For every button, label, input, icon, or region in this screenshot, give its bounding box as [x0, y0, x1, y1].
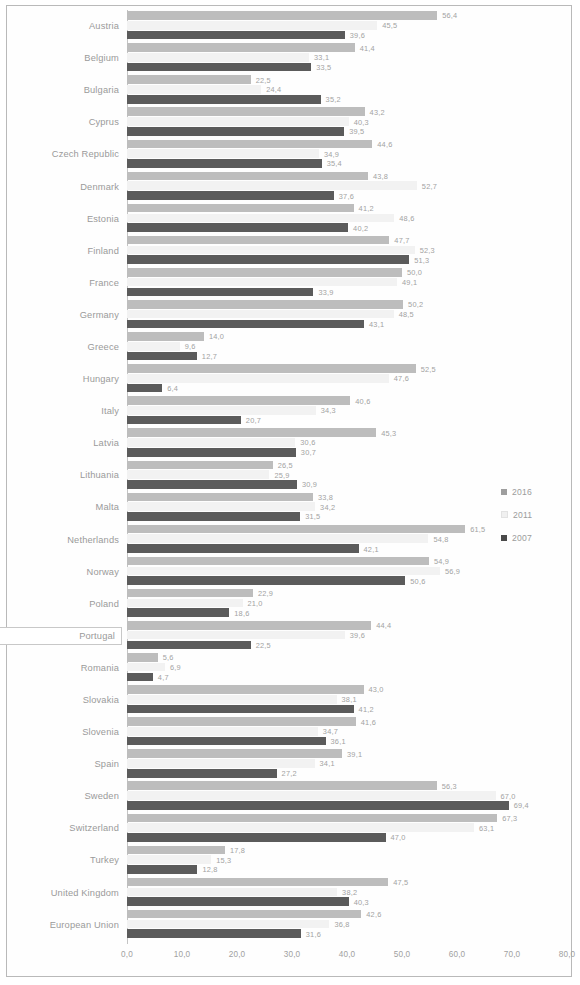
- data-label: 39,6: [345, 631, 365, 640]
- chart-row: United Kingdom47,538,240,3: [7, 877, 571, 909]
- category-label-spain: Spain: [0, 759, 119, 769]
- data-label: 22,5: [251, 75, 271, 84]
- bar-line: 5,6: [127, 653, 565, 662]
- bar-2011-denmark: [127, 181, 417, 190]
- data-label: 50,6: [405, 576, 425, 585]
- bar-line: 49,1: [127, 278, 565, 287]
- bar-2016-romania: [127, 653, 158, 662]
- bar-line: 17,8: [127, 846, 565, 855]
- data-label: 22,9: [253, 589, 273, 598]
- category-label-turkey: Turkey: [0, 855, 119, 865]
- bar-2007-latvia: [127, 448, 296, 457]
- data-label: 31,6: [301, 929, 321, 938]
- bar-line: 4,7: [127, 673, 565, 682]
- bar-group: 17,815,312,8: [127, 844, 565, 876]
- data-label: 54,8: [428, 534, 448, 543]
- legend-swatch-icon: [501, 489, 507, 495]
- data-label: 34,9: [319, 149, 339, 158]
- bar-line: 43,1: [127, 320, 565, 329]
- bar-line: 48,5: [127, 310, 565, 319]
- data-label: 26,5: [273, 460, 293, 469]
- bar-2016-switzerland: [127, 814, 497, 823]
- bar-line: 43,0: [127, 685, 565, 694]
- bar-2011-turkey: [127, 855, 211, 864]
- legend-swatch-icon: [501, 511, 508, 518]
- data-label: 4,7: [153, 672, 169, 681]
- x-axis: 0,010,020,030,040,050,060,070,080,0: [127, 950, 565, 964]
- bar-2007-portugal: [127, 641, 251, 650]
- bar-2007-romania: [127, 673, 153, 682]
- data-label: 22,5: [251, 640, 271, 649]
- data-label: 34,3: [316, 406, 336, 415]
- bar-line: 18,6: [127, 608, 565, 617]
- data-label: 52,7: [417, 181, 437, 190]
- data-label: 45,3: [376, 428, 396, 437]
- category-label-norway: Norway: [0, 567, 119, 577]
- bar-2007-united-kingdom: [127, 897, 349, 906]
- bar-2007-bulgaria: [127, 95, 321, 104]
- chart-row: Finland47,752,351,3: [7, 235, 571, 267]
- category-label-netherlands: Netherlands: [0, 535, 119, 545]
- bar-group: 43,038,141,2: [127, 684, 565, 716]
- category-label-lithuania: Lithuania: [0, 470, 119, 480]
- bar-2011-cyprus: [127, 117, 349, 126]
- bar-2011-finland: [127, 246, 415, 255]
- bar-line: 9,6: [127, 342, 565, 351]
- data-label: 34,7: [318, 727, 338, 736]
- legend-item-2016[interactable]: 2016: [501, 480, 571, 503]
- data-label: 6,9: [165, 663, 181, 672]
- bar-2011-france: [127, 278, 397, 287]
- chart-row: Austria56,445,539,6: [7, 10, 571, 42]
- chart-row: Latvia45,330,630,7: [7, 427, 571, 459]
- bar-line: 37,6: [127, 191, 565, 200]
- data-label: 52,3: [415, 245, 435, 254]
- bar-line: 52,7: [127, 181, 565, 190]
- data-label: 33,5: [311, 63, 331, 72]
- bar-line: 67,0: [127, 791, 565, 800]
- data-label: 54,9: [429, 557, 449, 566]
- bar-line: 56,3: [127, 781, 565, 790]
- bar-line: 47,5: [127, 878, 565, 887]
- bar-line: 45,3: [127, 428, 565, 437]
- bar-2011-malta: [127, 502, 315, 511]
- category-label-austria: Austria: [0, 21, 119, 31]
- bar-line: 45,5: [127, 21, 565, 30]
- bar-2011-germany: [127, 310, 394, 319]
- bar-2011-portugal: [127, 631, 345, 640]
- bar-line: 52,5: [127, 364, 565, 373]
- data-label: 40,2: [348, 223, 368, 232]
- bar-2016-spain: [127, 749, 342, 758]
- legend-item-2007[interactable]: 2007: [501, 526, 571, 549]
- bar-2016-italy: [127, 396, 350, 405]
- bar-2007-lithuania: [127, 480, 297, 489]
- x-tick-label: 0,0: [121, 950, 133, 959]
- category-label-germany: Germany: [0, 310, 119, 320]
- bar-group: 41,433,133,5: [127, 42, 565, 74]
- bar-line: 40,2: [127, 223, 565, 232]
- bar-line: 47,0: [127, 833, 565, 842]
- data-label: 42,6: [361, 910, 381, 919]
- category-label-france: France: [0, 278, 119, 288]
- bar-2016-lithuania: [127, 461, 273, 470]
- bar-2011-european-union: [127, 920, 329, 929]
- category-label-estonia: Estonia: [0, 214, 119, 224]
- chart-row: Slovakia43,038,141,2: [7, 684, 571, 716]
- category-label-italy: Italy: [0, 406, 119, 416]
- data-label: 43,8: [368, 171, 388, 180]
- category-label-latvia: Latvia: [0, 438, 119, 448]
- x-tick-label: 30,0: [284, 950, 301, 959]
- category-label-greece: Greece: [0, 342, 119, 352]
- category-label-portugal[interactable]: Portugal: [0, 627, 122, 645]
- bar-line: 43,2: [127, 107, 565, 116]
- chart-row: Italy40,634,320,7: [7, 395, 571, 427]
- bar-line: 54,9: [127, 557, 565, 566]
- legend-item-2011[interactable]: 2011: [501, 503, 571, 526]
- bar-line: 69,4: [127, 801, 565, 810]
- bar-2007-germany: [127, 320, 364, 329]
- bar-2007-belgium: [127, 63, 311, 72]
- chart-row: France50,049,133,9: [7, 267, 571, 299]
- bar-2011-greece: [127, 342, 180, 351]
- bar-line: 39,6: [127, 31, 565, 40]
- bar-2016-slovenia: [127, 717, 356, 726]
- bar-line: 67,3: [127, 814, 565, 823]
